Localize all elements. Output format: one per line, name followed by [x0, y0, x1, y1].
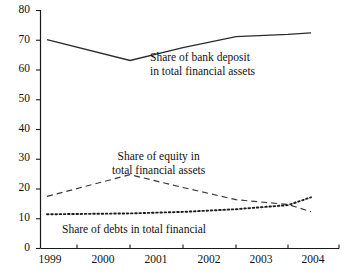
- annotation-equity-line1: Share of equity in: [112, 150, 205, 164]
- series-line-debts: [47, 197, 311, 214]
- annotation-debts-line1: Share of debts in total financial: [62, 223, 206, 237]
- x-tick-label-2003: 2003: [239, 254, 283, 266]
- x-tick-label-1999: 1999: [28, 254, 72, 266]
- y-tick-label-40: 40: [2, 123, 30, 135]
- x-tick-label-2001: 2001: [134, 254, 178, 266]
- x-tick-label-2004: 2004: [291, 254, 335, 266]
- y-tick-label-50: 50: [2, 93, 30, 105]
- annotation-bank-deposit-line1: Share of bank deposit: [150, 51, 255, 65]
- y-tick-label-0: 0: [2, 242, 30, 254]
- x-tick-label-2000: 2000: [81, 254, 125, 266]
- annotation-bank-deposit-line2: in total financial assets: [150, 65, 255, 79]
- y-tick-label-20: 20: [2, 182, 30, 194]
- y-tick-label-80: 80: [2, 4, 30, 16]
- annotation-debts: Share of debts in total financial: [62, 223, 206, 237]
- y-tick-label-10: 10: [2, 212, 30, 224]
- annotation-equity-line2: total financial assets: [112, 164, 205, 178]
- annotation-bank-deposit: Share of bank deposit in total financial…: [150, 51, 255, 78]
- y-tick-label-30: 30: [2, 152, 30, 164]
- x-tick-label-2002: 2002: [187, 254, 231, 266]
- y-tick-label-70: 70: [2, 34, 30, 46]
- y-tick-marks: [36, 11, 41, 249]
- line-chart: 80 70 60 50 40 30 20 10 0 1999 2000 2001…: [0, 0, 347, 276]
- y-tick-label-60: 60: [2, 63, 30, 75]
- annotation-equity: Share of equity in total financial asset…: [112, 150, 205, 177]
